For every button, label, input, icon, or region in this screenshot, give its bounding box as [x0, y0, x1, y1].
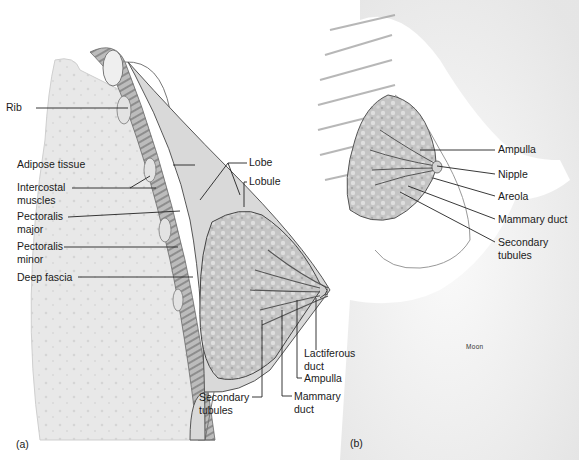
label-adipose-tissue: Adipose tissue — [17, 158, 85, 171]
label-pectoralis-minor: Pectoralis minor — [17, 240, 63, 265]
label-lobe: Lobe — [249, 156, 272, 169]
panel-label-b: (b) — [350, 437, 363, 449]
label-deep-fascia: Deep fascia — [17, 271, 72, 284]
label-mammary-duct-a: Mammary duct — [294, 390, 341, 415]
panel-a-art — [31, 48, 330, 440]
label-lactiferous-duct: Lactiferous duct — [304, 347, 355, 372]
breast-anatomy-illustration — [0, 0, 579, 463]
label-lobule: Lobule — [249, 175, 281, 188]
label-nipple: Nipple — [498, 168, 528, 181]
label-rib: Rib — [6, 101, 22, 114]
label-mammary-duct-b: Mammary duct — [498, 213, 567, 226]
label-intercostal-muscles: Intercostal muscles — [17, 181, 65, 206]
label-pectoralis-major: Pectoralis major — [17, 210, 63, 235]
label-secondary-tubules-b: Secondary tubules — [498, 236, 548, 261]
artist-signature: Moon — [466, 343, 483, 350]
label-secondary-tubules-a: Secondary tubules — [199, 391, 249, 416]
label-areola: Areola — [498, 190, 528, 203]
panel-b-art — [318, 0, 579, 460]
label-ampulla-b: Ampulla — [498, 143, 536, 156]
label-ampulla-a: Ampulla — [304, 372, 342, 385]
panel-label-a: (a) — [16, 438, 29, 450]
